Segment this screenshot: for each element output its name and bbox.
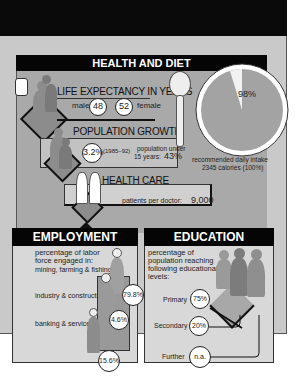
female-label: female [137, 101, 161, 110]
education-level-label: Primary [163, 296, 187, 303]
population-growth-period: (1985–92) [103, 148, 130, 154]
farmer-head-icon [112, 248, 122, 258]
life-expectancy-line [57, 119, 155, 121]
person-head-icon [42, 75, 51, 84]
person-figure-icon [59, 145, 72, 169]
employment-sector-label: banking & services [35, 320, 94, 327]
education-intro-line4: levels: [148, 272, 169, 281]
diet-caption-line1: recommended daily intake [192, 156, 268, 163]
employment-title: EMPLOYMENT [12, 228, 138, 246]
baby-bottle-icon [15, 78, 28, 96]
pie-value: 98% [238, 89, 256, 99]
under15-value: 43% [164, 151, 182, 161]
education-level-label: Secondary [154, 322, 187, 329]
builder-head-icon [101, 273, 111, 283]
male-label: male [72, 101, 89, 110]
education-level-label: Further [162, 353, 185, 360]
under15-label-line2: 15 years: [134, 153, 161, 160]
health-care-heading: HEALTH CARE [102, 175, 169, 186]
employment-sector-label: mining, farming & fishing [35, 266, 112, 273]
sector-value-banking: 15.6% [98, 350, 120, 372]
doctor-value: 9,000 [191, 195, 214, 205]
sector-value-mining: 79.8% [122, 284, 144, 306]
female-value: 52 [115, 98, 133, 116]
nurse-figure-icon [89, 172, 101, 204]
doctor-figure-icon [76, 172, 88, 204]
calorie-pie-chart [194, 62, 290, 158]
sector-value-industry: 4.6% [109, 310, 129, 330]
banker-head-icon [89, 308, 98, 317]
doctor-label: patients per doctor: [122, 197, 182, 204]
top-black-banner [0, 0, 287, 36]
banker-figure-icon [87, 317, 100, 353]
diet-caption-line2: 2345 calories (100%) [202, 164, 263, 171]
employment-intro-line2: force engaged in: [35, 256, 93, 265]
male-value: 48 [89, 98, 107, 116]
population-growth-rate: 3.2% [82, 143, 102, 163]
spoon-bowl-icon [169, 71, 191, 97]
population-growth-heading: POPULATION GROWTH [73, 126, 182, 137]
education-title: EDUCATION [144, 228, 274, 246]
spoon-handle-icon [176, 95, 184, 147]
person-figure-icon [45, 84, 57, 112]
employment-sector-label: industry & construction [35, 292, 106, 299]
education-connector-lines [200, 290, 280, 365]
life-expectancy-underline [57, 98, 150, 99]
